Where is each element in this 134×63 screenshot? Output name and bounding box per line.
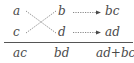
product-ad: ad xyxy=(105,26,120,38)
product-bc: bc xyxy=(105,5,119,17)
term-b: b xyxy=(58,5,66,17)
term-a: a xyxy=(13,5,20,17)
term-c: c xyxy=(13,26,20,38)
product-ac: ac xyxy=(13,47,27,59)
sum-ad-plus-bc: ad+bc xyxy=(96,47,134,59)
product-bd: bd xyxy=(54,47,69,59)
term-d: d xyxy=(58,26,66,38)
arrowhead-icon xyxy=(96,31,101,35)
arrowhead-icon xyxy=(96,11,101,15)
